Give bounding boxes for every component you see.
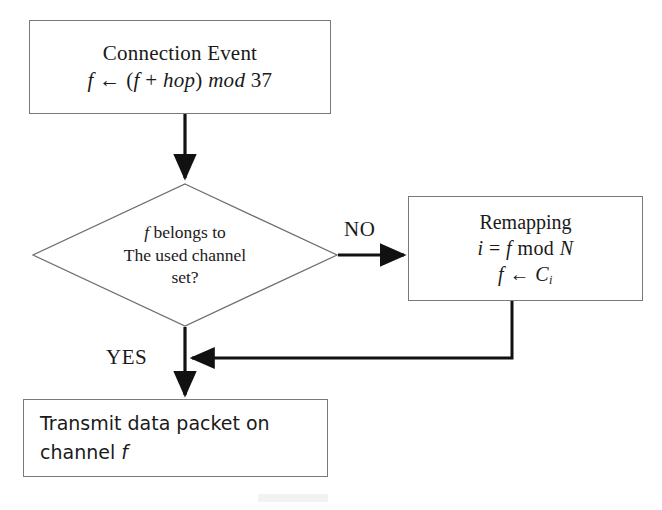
flowchart-canvas: Connection Event f ← (f + hop) mod 37 f … (0, 0, 662, 510)
formula-f2: f (133, 68, 139, 92)
decision-line-3: set? (171, 266, 198, 289)
formula-f: f (88, 68, 94, 92)
formula-hop: hop (163, 68, 195, 92)
remap2-C: C (535, 263, 549, 285)
caption-smudge (258, 494, 328, 502)
decision-line-2: The used channel (124, 244, 246, 267)
remap2-subscript: i (549, 273, 553, 287)
connection-event-formula: f ← (f + hop) mod 37 (88, 67, 273, 94)
remap-N: N (560, 237, 574, 259)
formula-plus: + (145, 68, 157, 92)
decision-line-1-rest: belongs to (149, 222, 226, 242)
node-decision[interactable]: f belongs to The used channel set? (32, 183, 338, 327)
remap-f: f (506, 237, 512, 259)
formula-value: 37 (251, 68, 273, 92)
edge-label-no: NO (344, 217, 375, 242)
formula-assign-arrow: ← (99, 68, 120, 92)
transmit-var-f: f (121, 441, 128, 463)
decision-text: f belongs to The used channel set? (32, 183, 338, 327)
remap-i: i (478, 237, 484, 259)
transmit-line-2-prefix: channel (40, 441, 121, 463)
remapping-formula-2: f ← Ci (498, 261, 553, 288)
remap2-assign-arrow: ← (509, 263, 529, 285)
remap2-f: f (498, 263, 504, 285)
remapping-title: Remapping (479, 209, 571, 235)
transmit-line-2: channel f (40, 438, 128, 467)
formula-mod: mod (208, 68, 245, 92)
connection-event-title: Connection Event (103, 40, 257, 67)
node-transmit[interactable]: Transmit data packet on channel f (23, 399, 328, 477)
decision-line-1: f belongs to (144, 221, 226, 244)
node-connection-event[interactable]: Connection Event f ← (f + hop) mod 37 (29, 20, 331, 114)
transmit-line-1: Transmit data packet on (40, 409, 270, 438)
node-remapping[interactable]: Remapping i = f mod N f ← Ci (408, 196, 643, 301)
edge-label-yes: YES (106, 345, 147, 370)
remap-mod: mod (517, 237, 554, 259)
formula-close-paren: ) (195, 68, 202, 92)
remapping-formula-1: i = f mod N (478, 235, 574, 261)
remap-equals: = (489, 237, 501, 259)
